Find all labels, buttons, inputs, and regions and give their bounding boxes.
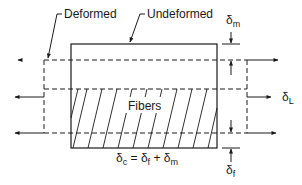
compatibility-equation: δc = δf + δm xyxy=(116,151,178,167)
delta-f-dimension xyxy=(222,120,240,162)
left-load-arrows xyxy=(15,60,44,133)
fiber-region xyxy=(71,89,217,148)
deformed-label: Deformed xyxy=(64,7,117,21)
delta-l-label: δL xyxy=(282,90,294,106)
undeformed-label: Undeformed xyxy=(147,7,213,21)
composite-deformation-diagram: Deformed Undeformed Fibers δm δL δf δc =… xyxy=(0,0,302,185)
delta-f-label: δf xyxy=(226,163,236,179)
delta-m-label: δm xyxy=(226,13,240,29)
right-load-arrows xyxy=(247,60,278,133)
delta-m-dimension xyxy=(222,32,240,75)
fibers-label: Fibers xyxy=(128,99,161,113)
